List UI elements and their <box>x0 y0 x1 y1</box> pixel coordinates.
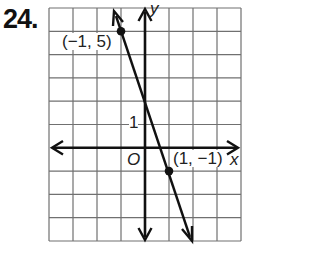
point-marker-2 <box>165 167 174 176</box>
x-axis-label: x <box>230 151 239 168</box>
point-label-1: (−1, 5) <box>62 33 112 50</box>
point-marker-1 <box>117 27 126 36</box>
y-tick-label-1: 1 <box>129 114 138 131</box>
y-axis-label: y <box>150 0 159 17</box>
point-label-2: (1, −1) <box>173 150 223 167</box>
origin-label: O <box>127 151 140 168</box>
graphed-line <box>113 11 192 241</box>
